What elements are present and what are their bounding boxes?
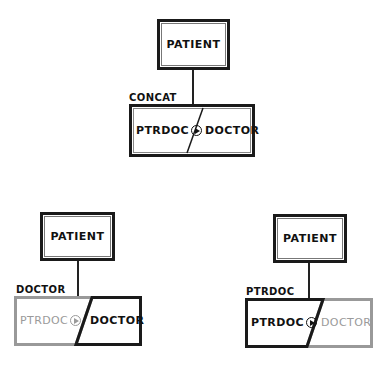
play-arrow-icon [306, 317, 317, 328]
patient-entity-bottom-left[interactable]: PATIENT [40, 212, 115, 261]
right-part: DOCTOR [205, 124, 259, 137]
patient-label: PATIENT [50, 230, 104, 243]
patient-entity-bottom-right[interactable]: PATIENT [273, 214, 347, 263]
right-part: DOCTOR [321, 316, 371, 329]
connector-line [192, 70, 194, 105]
play-arrow-icon [70, 315, 81, 326]
connector-line [308, 263, 310, 298]
right-part: DOCTOR [90, 314, 144, 327]
patient-label: PATIENT [166, 38, 220, 51]
left-part: PTRDOC [136, 124, 202, 137]
composite-entity-bottom-left[interactable]: PTRDOC DOCTOR [14, 296, 142, 346]
connector-line [77, 261, 79, 297]
left-part: PTRDOC [251, 316, 317, 329]
composite-entity-bottom-right[interactable]: PTRDOC DOCTOR [245, 298, 373, 348]
left-part: PTRDOC [20, 314, 81, 327]
patient-label: PATIENT [283, 232, 337, 245]
relation-label-concat: CONCAT [129, 92, 177, 103]
play-arrow-icon [191, 125, 202, 136]
relation-label-doctor: DOCTOR [16, 284, 66, 295]
patient-entity-top[interactable]: PATIENT [157, 19, 230, 70]
relation-label-ptrdoc: PTRDOC [246, 286, 294, 297]
composite-entity-top[interactable]: PTRDOC DOCTOR [129, 104, 255, 157]
